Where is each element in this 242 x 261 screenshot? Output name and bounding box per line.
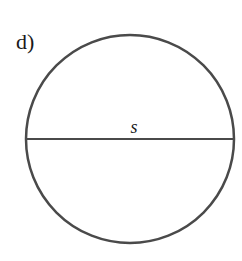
diameter-label: s (130, 117, 137, 137)
circle-diagram: s (0, 0, 242, 261)
